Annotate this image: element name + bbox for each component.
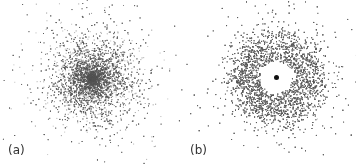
panel-a-gaussian-cloud: (a) bbox=[0, 0, 178, 165]
gaussian-dot-cloud bbox=[0, 0, 178, 165]
ring-dot-cloud bbox=[178, 0, 356, 165]
nucleus-dot bbox=[274, 75, 279, 80]
panel-label-b: (b) bbox=[190, 143, 207, 157]
panel-label-a: (a) bbox=[8, 143, 25, 157]
panel-b-ring-cloud: (b) bbox=[178, 0, 356, 165]
